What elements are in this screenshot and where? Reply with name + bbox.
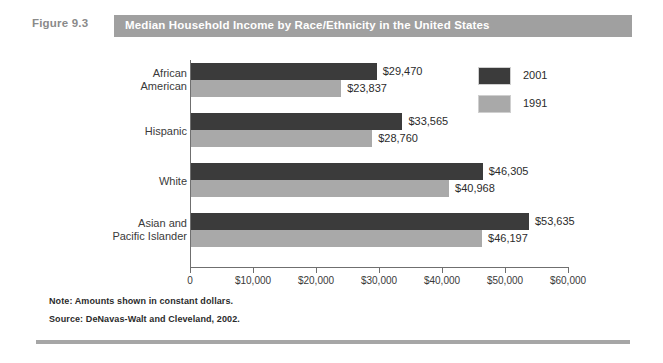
- x-axis-tick-mark: [568, 268, 569, 273]
- x-axis-tick-mark: [505, 268, 506, 273]
- figure-header: Figure 9.3 Median Household Income by Ra…: [32, 15, 632, 37]
- figure-number-label: Figure 9.3: [32, 17, 88, 29]
- bar-value-label: $23,837: [347, 80, 387, 97]
- figure-title-bar: Median Household Income by Race/Ethnicit…: [114, 15, 632, 37]
- chart-legend: 20011991: [478, 67, 608, 122]
- legend-swatch-icon: [478, 67, 511, 85]
- bottom-divider: [36, 340, 630, 344]
- bar-group: Asian andPacific Islander$53,635$46,197: [32, 213, 632, 247]
- x-axis-tick-label: $10,000: [235, 275, 271, 286]
- x-axis-tick-mark: [253, 268, 254, 273]
- x-axis-tick-label: $60,000: [550, 275, 586, 286]
- bar-1991: [191, 80, 341, 97]
- bar-2001: [191, 63, 377, 80]
- x-axis-tick-mark: [190, 268, 191, 273]
- x-axis-tick-label: $40,000: [424, 275, 460, 286]
- x-axis-tick-mark: [442, 268, 443, 273]
- note-text: Note: Amounts shown in constant dollars.: [49, 296, 609, 306]
- x-axis-tick-label: $50,000: [487, 275, 523, 286]
- category-label: AfricanAmerican: [0, 67, 187, 93]
- bar-value-label: $40,968: [455, 180, 495, 197]
- x-axis-tick-mark: [316, 268, 317, 273]
- bar-1991: [191, 230, 482, 247]
- chart-plot-area: 0$10,000$20,000$30,000$40,000$50,000$60,…: [32, 55, 632, 290]
- bar-value-label: $46,197: [488, 230, 528, 247]
- figure-notes: Note: Amounts shown in constant dollars.…: [49, 296, 609, 332]
- category-label: Hispanic: [0, 125, 187, 138]
- bar-value-label: $28,760: [378, 130, 418, 147]
- bar-2001: [191, 213, 529, 230]
- bar-2001: [191, 163, 483, 180]
- bar-group: White$46,305$40,968: [32, 163, 632, 197]
- source-text: Source: DeNavas-Walt and Cleveland, 2002…: [49, 314, 609, 324]
- bar-value-label: $46,305: [489, 163, 529, 180]
- legend-label: 2001: [523, 69, 547, 81]
- x-axis-tick-mark: [379, 268, 380, 273]
- bar-value-label: $33,565: [408, 113, 448, 130]
- x-axis-tick-label: $20,000: [298, 275, 334, 286]
- category-label: Asian andPacific Islander: [0, 217, 187, 243]
- legend-label: 1991: [523, 97, 547, 109]
- x-axis-tick-label: 0: [187, 275, 193, 286]
- figure-container: Figure 9.3 Median Household Income by Ra…: [0, 0, 663, 363]
- bar-value-label: $29,470: [383, 63, 423, 80]
- legend-swatch-icon: [478, 95, 511, 113]
- category-label: White: [0, 175, 187, 188]
- page-title: Median Household Income by Race/Ethnicit…: [125, 19, 490, 31]
- bar-value-label: $53,635: [535, 213, 575, 230]
- bar-2001: [191, 113, 402, 130]
- bar-1991: [191, 130, 372, 147]
- x-axis-tick-label: $30,000: [361, 275, 397, 286]
- bar-1991: [191, 180, 449, 197]
